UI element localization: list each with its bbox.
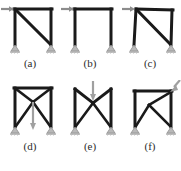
load-arrow-c [122,6,135,11]
frame-drawing-f [120,80,181,142]
panel-caption-f: (f) [120,140,180,152]
frame-members-b [74,9,112,45]
right-column [171,10,172,45]
support-left-c [129,45,139,54]
support-right-c [166,45,176,54]
brace-bottom-right [149,105,170,126]
frame-drawing-b [60,0,120,60]
support-right-b [106,45,116,54]
panel-caption-d: (d) [0,140,60,152]
frame-members-f [134,91,172,127]
frame-members-c [134,9,173,45]
load-arrow-b [61,6,74,11]
support-right-e [106,127,116,136]
support-right-d [46,127,56,136]
frame-drawing-e [60,80,120,142]
brace-top-left [16,89,33,102]
frame-drawing-a [0,0,60,60]
panel-caption-b: (b) [60,57,120,69]
support-left-f [130,127,140,136]
top-beam-right-half-deformed [93,89,111,103]
brace-bottom-left [76,103,93,126]
brace-bottom-right [33,102,50,126]
support-left-a [10,45,20,54]
top-beam-left-half-deformed [75,89,93,103]
frame-members-a [14,9,52,45]
frame-drawing-d [0,80,60,142]
support-left-b [70,45,80,54]
brace-bottom-left [16,102,33,126]
load-arrow-e [90,81,96,101]
left-column [134,9,136,45]
brace-bottom-right [93,103,110,126]
load-arrow-a [1,6,14,11]
frame-drawing-c [120,0,181,60]
brace-top-right [33,89,50,102]
support-right-a [46,45,56,54]
brace-bottom-left [136,105,149,126]
brace-top-right-deformed [149,92,171,105]
diagonal-brace [16,10,50,44]
diagonal-brace [137,10,170,44]
panel-caption-c: (c) [120,57,180,69]
support-left-e [70,127,80,136]
top-beam [136,9,173,10]
support-left-d [10,127,20,136]
support-right-f [166,127,176,136]
panel-caption-a: (a) [0,57,60,69]
panel-caption-e: (e) [60,140,120,152]
figure-canvas: (a) [0,0,181,171]
